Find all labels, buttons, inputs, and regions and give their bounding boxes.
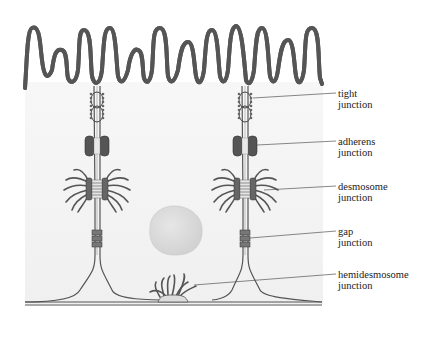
adherens-junction-left: [85, 136, 109, 156]
cytoplasm: [25, 82, 323, 304]
label-gap-line2: junction: [338, 237, 372, 248]
label-tight-line1: tight: [338, 88, 372, 99]
label-adherens-junction: adherens junction: [338, 136, 375, 158]
microvilli-membrane: [25, 26, 322, 88]
cell-junction-diagram: tight junction adherens junction desmoso…: [0, 0, 439, 338]
gap-junction-left: [92, 230, 102, 247]
label-desmosome-line1: desmosome: [338, 181, 388, 192]
gap-junction-right: [240, 230, 250, 247]
label-hemidesmosome-junction: hemidesmosome junction: [338, 269, 409, 291]
adherens-junction-right: [233, 136, 257, 156]
label-hemidesmosome-line1: hemidesmosome: [338, 269, 409, 280]
nucleus: [150, 206, 202, 255]
label-hemidesmosome-line2: junction: [338, 280, 409, 291]
label-desmosome-line2: junction: [338, 192, 388, 203]
label-tight-line2: junction: [338, 99, 372, 110]
label-adherens-line2: junction: [338, 147, 375, 158]
label-desmosome-junction: desmosome junction: [338, 181, 388, 203]
label-tight-junction: tight junction: [338, 88, 372, 110]
label-gap-junction: gap junction: [338, 226, 372, 248]
label-adherens-line1: adherens: [338, 136, 375, 147]
label-gap-line1: gap: [338, 226, 372, 237]
